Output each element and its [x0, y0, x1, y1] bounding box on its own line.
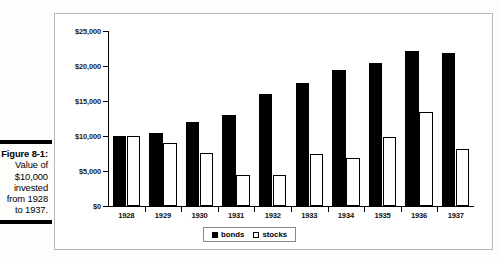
- bar-group-1932: [259, 31, 287, 206]
- bar-group-1933: [296, 31, 324, 206]
- x-axis-label-1930: 1930: [181, 211, 218, 220]
- caption-line-3: invested: [0, 182, 48, 193]
- bar-bonds-1931[interactable]: [222, 115, 236, 206]
- bar-bonds-1934[interactable]: [332, 70, 346, 207]
- y-tick-0: [103, 206, 109, 207]
- figure-caption-text: Figure 8-1: Value of $10,000 invested fr…: [0, 144, 52, 220]
- bar-group-1934: [332, 31, 360, 206]
- caption-rule-bottom: [0, 220, 52, 224]
- bar-stocks-1933[interactable]: [310, 154, 324, 206]
- x-axis-label-1928: 1928: [108, 211, 145, 220]
- figure-caption-block: Figure 8-1: Value of $10,000 invested fr…: [0, 140, 52, 224]
- bar-bonds-1937[interactable]: [442, 53, 456, 206]
- bar-stocks-1935[interactable]: [383, 137, 397, 206]
- bar-group-1930: [186, 31, 214, 206]
- figure-caption-title: Figure 8-1:: [0, 148, 48, 159]
- y-axis-label-5: $25,000: [75, 27, 101, 36]
- x-axis-label-1935: 1935: [364, 211, 401, 220]
- y-tick-3: [103, 101, 109, 102]
- legend-item-stocks: stocks: [253, 230, 287, 239]
- bar-bonds-1935[interactable]: [369, 63, 383, 207]
- bar-bonds-1933[interactable]: [296, 83, 310, 206]
- y-axis-label-0: $0: [93, 202, 101, 211]
- filled-square-icon: [212, 232, 218, 238]
- y-axis-label-4: $20,000: [75, 62, 101, 71]
- caption-line-5: to 1937.: [0, 204, 48, 215]
- x-axis-label-1931: 1931: [218, 211, 255, 220]
- bar-group-1931: [222, 31, 250, 206]
- bar-stocks-1929[interactable]: [163, 143, 177, 206]
- bar-group-1937: [442, 31, 470, 206]
- y-axis-label-2: $10,000: [75, 132, 101, 141]
- bar-stocks-1928[interactable]: [127, 136, 141, 206]
- y-tick-5: [103, 31, 109, 32]
- bar-stocks-1936[interactable]: [419, 112, 433, 206]
- caption-line-4: from 1928: [0, 193, 48, 204]
- open-square-icon: [253, 232, 259, 238]
- y-axis-label-3: $15,000: [75, 97, 101, 106]
- page-canvas: Figure 8-1: Value of $10,000 invested fr…: [0, 0, 499, 262]
- bar-bonds-1929[interactable]: [149, 133, 163, 206]
- x-axis-label-1933: 1933: [291, 211, 328, 220]
- bar-group-1936: [405, 31, 433, 206]
- bar-group-1928: [113, 31, 141, 206]
- legend-item-bonds: bonds: [212, 230, 244, 239]
- caption-line-2: $10,000: [0, 171, 48, 182]
- caption-line-1: Value of: [0, 159, 48, 170]
- chart-legend: bonds stocks: [203, 227, 296, 242]
- chart-plot-area: $0$5,000$10,000$15,000$20,000$25,000 192…: [108, 31, 474, 207]
- bar-stocks-1934[interactable]: [346, 158, 360, 206]
- bar-group-1929: [149, 31, 177, 206]
- legend-label-bonds: bonds: [221, 230, 244, 239]
- bar-stocks-1932[interactable]: [273, 175, 287, 207]
- x-axis-label-1937: 1937: [437, 211, 474, 220]
- bar-stocks-1930[interactable]: [200, 153, 214, 206]
- y-axis-label-1: $5,000: [79, 167, 101, 176]
- x-axis-label-1932: 1932: [254, 211, 291, 220]
- x-axis-label-1929: 1929: [145, 211, 182, 220]
- bar-bonds-1932[interactable]: [259, 94, 273, 206]
- y-tick-1: [103, 171, 109, 172]
- y-tick-2: [103, 136, 109, 137]
- bar-group-1935: [369, 31, 397, 206]
- bar-stocks-1931[interactable]: [236, 175, 250, 207]
- legend-label-stocks: stocks: [262, 230, 287, 239]
- bar-bonds-1930[interactable]: [186, 122, 200, 206]
- x-axis-label-1934: 1934: [328, 211, 365, 220]
- bar-bonds-1928[interactable]: [113, 136, 127, 206]
- y-tick-4: [103, 66, 109, 67]
- bar-bonds-1936[interactable]: [405, 51, 419, 206]
- x-axis-label-1936: 1936: [401, 211, 438, 220]
- figure-frame: $0$5,000$10,000$15,000$20,000$25,000 192…: [54, 13, 493, 250]
- bar-stocks-1937[interactable]: [456, 149, 470, 206]
- y-axis-line: [108, 31, 109, 207]
